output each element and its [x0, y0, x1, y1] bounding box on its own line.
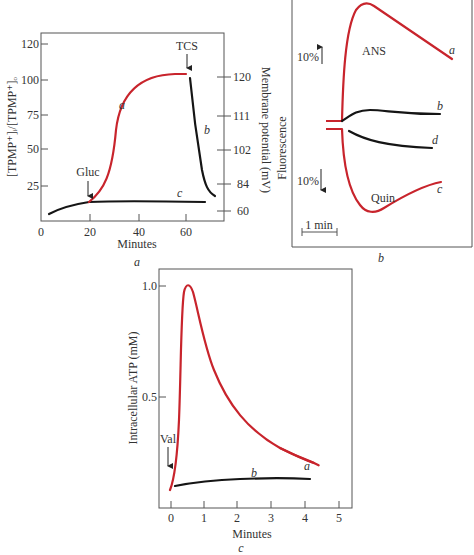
panel-a-x-axis: 0 20 40 60 Minutes a	[38, 214, 192, 269]
panel-b-curve-d	[349, 131, 432, 148]
panel-a-y-label: [TPMP⁺]ᵢ/[TPMP⁺]ₒ	[5, 76, 19, 177]
x-tick-label: 60	[180, 225, 192, 239]
y-tick-label: 0.5	[142, 390, 157, 404]
x-tick-label: 4	[302, 511, 308, 525]
panel-a-y2-axis: 120 111 102 84 60 Membrane potential (mV…	[217, 67, 273, 218]
label-ans: ANS	[362, 44, 386, 58]
x-tick-label: 2	[234, 511, 240, 525]
panel-a-x-label: Minutes	[117, 237, 157, 251]
annotation-gluc: Gluc	[76, 165, 99, 179]
panel-a-y2-label: Membrane potential (mV)	[259, 67, 273, 193]
curve-label-b: b	[204, 123, 210, 137]
panel-b-caption: b	[378, 251, 384, 265]
panel-c-caption: c	[238, 541, 244, 555]
panel-b-curve-b	[342, 110, 440, 121]
scale-up-label: 10%	[297, 50, 319, 64]
panel-a-curve-a	[89, 74, 186, 202]
y-tick-label: 120	[21, 37, 39, 51]
figure: 120 100 75 50 25 [TPMP⁺]ᵢ/[TPMP⁺]ₒ 120 1…	[0, 0, 474, 555]
panel-c-curve-a	[170, 285, 319, 490]
panel-a-curve-c	[49, 201, 205, 214]
x-tick-label: 3	[268, 511, 274, 525]
y2-tick-label: 102	[233, 143, 251, 157]
y-tick-label: 25	[27, 179, 39, 193]
x-tick-label: 1	[201, 511, 207, 525]
x-tick-label: 5	[336, 511, 342, 525]
y-tick-label: 50	[27, 142, 39, 156]
curve-label-a: a	[119, 98, 125, 112]
label-quin: Quin	[371, 191, 395, 205]
y-tick-label: 100	[21, 73, 39, 87]
y2-tick-label: 60	[237, 204, 249, 218]
time-scale-label: 1 min	[305, 218, 333, 232]
x-tick-label: 0	[168, 511, 174, 525]
panel-a: 120 100 75 50 25 [TPMP⁺]ᵢ/[TPMP⁺]ₒ 120 1…	[5, 33, 273, 269]
y2-tick-label: 84	[237, 177, 249, 191]
y2-tick-label: 120	[233, 70, 251, 84]
panel-b-y-label: Fluorescence	[275, 116, 289, 179]
panel-c-y-axis: 1.0 0.5 Intracellular ATP (mM)	[126, 279, 166, 444]
curve-label-b: b	[251, 466, 257, 480]
x-tick-label: 20	[84, 225, 96, 239]
annotation-val: Val	[160, 432, 177, 446]
annotation-tcs: TCS	[176, 39, 198, 53]
panel-c-curve-b	[175, 478, 310, 486]
panel-b-curve-a	[342, 3, 452, 121]
panel-a-curve-b	[190, 78, 215, 196]
curve-label-c: c	[437, 182, 443, 196]
panel-c-y-label: Intracellular ATP (mM)	[126, 332, 140, 445]
curve-label-b: b	[437, 99, 443, 113]
curve-label-a: a	[449, 43, 455, 57]
x-tick-label: 0	[38, 225, 44, 239]
y-tick-label: 1.0	[142, 279, 157, 293]
panel-a-y-axis: 120 100 75 50 25 [TPMP⁺]ᵢ/[TPMP⁺]ₒ	[5, 37, 48, 193]
panel-c-x-axis: 0 1 2 3 4 5 Minutes c	[168, 501, 342, 555]
scale-down-label: 10%	[297, 174, 319, 188]
y2-tick-label: 111	[233, 109, 250, 123]
panel-a-caption: a	[134, 255, 140, 269]
curve-label-c: c	[177, 186, 183, 200]
curve-label-a: a	[304, 459, 310, 473]
curve-label-d: d	[432, 133, 439, 147]
panel-b: Fluorescence 10% 10% 1 min ANS Quin a b …	[275, 0, 472, 265]
panel-c-x-label: Minutes	[232, 527, 272, 541]
y-tick-label: 75	[27, 108, 39, 122]
panel-c: 1.0 0.5 Intracellular ATP (mM) 0 1 2 3 4…	[126, 269, 352, 555]
